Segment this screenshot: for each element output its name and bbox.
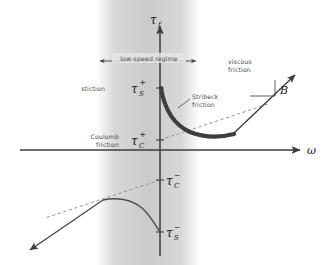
coulomb-friction-label: Coulomb friction — [90, 133, 119, 148]
stiction-label: stiction — [81, 85, 105, 92]
stribeck-friction-line1: Stribeck — [192, 93, 219, 100]
tau-c-plus-base: τ — [131, 134, 138, 148]
tau-s-plus-base: τ — [131, 82, 138, 96]
friction-diagram-svg: low-speed regime τ f ω τ S + stiction τ … — [0, 0, 335, 265]
low-speed-regime-label: low-speed regime — [120, 55, 178, 63]
tau-c-minus-sup: − — [174, 171, 180, 180]
viscous-friction-label: viscous friction — [228, 58, 252, 73]
tau-s-plus-sub: S — [139, 90, 144, 98]
coulomb-friction-line1: Coulomb — [90, 133, 119, 140]
coulomb-friction-line2: friction — [96, 141, 119, 148]
viscous-friction-line-negative — [30, 200, 103, 250]
viscous-friction-line2: friction — [228, 66, 251, 73]
y-axis-label-tau: τ — [150, 13, 157, 27]
viscous-slope-triangle — [250, 80, 275, 96]
viscous-friction-line1: viscous — [228, 58, 252, 65]
tau-c-minus-base: τ — [166, 174, 173, 188]
figure-canvas: low-speed regime τ f ω τ S + stiction τ … — [0, 0, 335, 265]
tau-c-minus-sub: C — [174, 182, 180, 190]
x-axis-label-omega: ω — [307, 144, 316, 157]
tau-c-plus-sub: C — [139, 142, 145, 150]
viscous-slope-label-B: B — [279, 84, 288, 97]
tau-s-plus-sup: + — [140, 78, 146, 87]
stribeck-friction-line2: friction — [192, 101, 215, 108]
tau-s-minus-base: τ — [166, 226, 173, 240]
tau-s-minus-sub: S — [174, 234, 179, 242]
stribeck-friction-label: Stribeck friction — [192, 93, 219, 108]
tau-c-plus-sup: + — [140, 130, 146, 139]
tau-s-minus-sup: − — [174, 223, 180, 232]
